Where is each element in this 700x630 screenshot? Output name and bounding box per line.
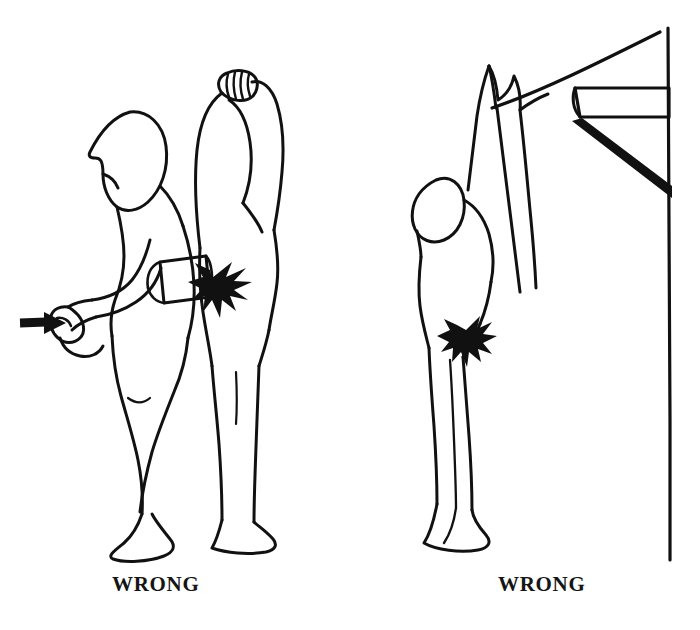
rear-figure-thigh-crease <box>236 372 237 424</box>
line-art-canvas <box>0 0 700 630</box>
caption-left-panel: WRONG <box>112 572 200 597</box>
caption-right-panel: WRONG <box>498 572 586 597</box>
illustration-sheet: WRONG WRONG <box>0 0 700 630</box>
